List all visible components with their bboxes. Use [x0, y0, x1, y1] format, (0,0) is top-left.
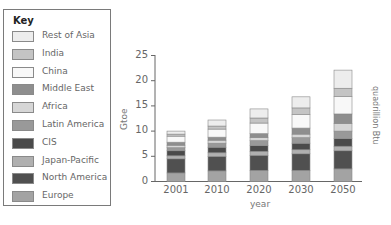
bar-2050	[334, 70, 352, 181]
bar-segment-north-america	[167, 159, 185, 173]
bar-segment-africa	[167, 145, 185, 148]
bar-segment-middle-east	[208, 137, 226, 140]
bar-segment-china	[334, 96, 352, 114]
bar-segment-china	[292, 114, 310, 128]
y-tick-label: 15	[128, 99, 148, 110]
bar-segment-latin-america	[292, 138, 310, 144]
bar-segment-india	[167, 134, 185, 136]
x-tick-label: 2010	[202, 184, 232, 195]
bar-segment-europe	[250, 170, 268, 181]
bar-segment-latin-america	[167, 148, 185, 151]
bar-segment-europe	[208, 171, 226, 182]
bar-segment-china	[208, 129, 226, 137]
bar-segment-latin-america	[208, 143, 226, 147]
bar-segment-africa	[334, 124, 352, 132]
x-tick-label: 2001	[161, 184, 191, 195]
x-tick-label: 2020	[244, 184, 274, 195]
bar-2030	[292, 97, 310, 182]
bar-segment-japan-pacific	[292, 150, 310, 154]
bar-segment-latin-america	[334, 131, 352, 139]
bar-segment-india	[250, 118, 268, 123]
bar-segment-north-america	[208, 156, 226, 171]
bar-segment-china	[250, 123, 268, 134]
bar-segment-africa	[292, 134, 310, 138]
bar-segment-africa	[250, 138, 268, 141]
bar-segment-india	[334, 88, 352, 96]
bar-segment-cis	[208, 147, 226, 153]
bar-segment-rest-of-asia	[167, 131, 185, 134]
bar-segment-europe	[334, 169, 352, 182]
bar-segment-middle-east	[167, 142, 185, 145]
bar-segment-north-america	[250, 155, 268, 170]
bar-segment-rest-of-asia	[292, 97, 310, 108]
bar-segment-north-america	[292, 154, 310, 171]
x-tick-label: 2030	[286, 184, 316, 195]
bar-2001	[167, 131, 185, 181]
bar-segment-middle-east	[292, 128, 310, 134]
bar-segment-india	[208, 126, 226, 129]
x-tick-label: 2050	[328, 184, 358, 195]
y-tick-label: 5	[128, 149, 148, 160]
bar-2010	[208, 120, 226, 181]
y-tick-label: 0	[128, 175, 148, 186]
bar-segment-middle-east	[334, 114, 352, 124]
secondary-y-axis-title: quadrillion Btu	[371, 86, 380, 145]
bar-segment-cis	[250, 146, 268, 152]
bar-segment-europe	[167, 173, 185, 182]
bar-segment-europe	[292, 170, 310, 181]
bar-segment-japan-pacific	[250, 151, 268, 155]
bar-segment-middle-east	[250, 134, 268, 138]
bar-segment-japan-pacific	[334, 146, 352, 151]
y-tick-label: 25	[128, 49, 148, 60]
bar-segment-rest-of-asia	[334, 70, 352, 88]
bar-segment-rest-of-asia	[250, 109, 268, 118]
bar-segment-north-america	[334, 151, 352, 169]
bar-segment-japan-pacific	[208, 153, 226, 157]
bar-segment-japan-pacific	[167, 156, 185, 159]
bar-segment-cis	[167, 151, 185, 156]
bar-segment-cis	[334, 139, 352, 147]
x-axis-title: year	[250, 199, 270, 209]
bar-segment-india	[292, 108, 310, 115]
y-tick-label: 10	[128, 124, 148, 135]
bar-segment-africa	[208, 140, 226, 143]
stacked-bar-chart: 0510152025 20012010202020302050 Gtoe yea…	[0, 0, 391, 225]
bar-segment-cis	[292, 143, 310, 150]
y-tick-label: 20	[128, 74, 148, 85]
bar-segment-latin-america	[250, 141, 268, 146]
bar-segment-china	[167, 136, 185, 142]
bar-2020	[250, 109, 268, 182]
bar-segment-rest-of-asia	[208, 120, 226, 126]
y-axis-title: Gtoe	[119, 108, 129, 130]
